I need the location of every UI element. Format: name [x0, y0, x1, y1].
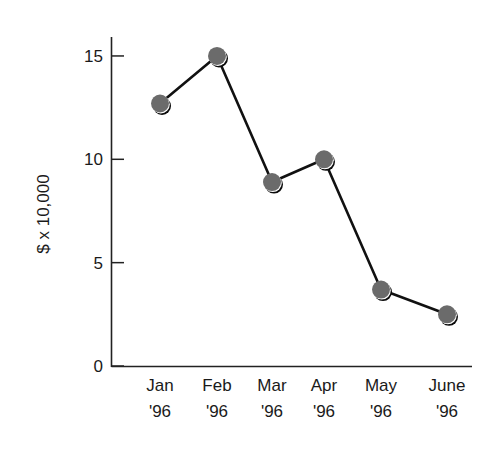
y-axis-title: $ x 10,000	[34, 174, 53, 253]
x-tick-label: Mar'96	[257, 376, 287, 421]
x-tick-label: May'96	[365, 376, 398, 421]
month-label: Apr	[311, 376, 338, 395]
data-point-marker	[372, 281, 392, 302]
data-point-marker	[208, 47, 228, 67]
x-tick-label: Feb'96	[202, 376, 231, 421]
y-tick-label: 5	[94, 254, 103, 273]
month-label: Jan	[146, 376, 173, 395]
x-tick-labels: Jan'96Feb'96Mar'96Apr'96May'96June'96	[146, 376, 465, 421]
month-label: May	[365, 376, 398, 395]
data-point-marker	[438, 305, 458, 326]
year-label: '96	[436, 402, 458, 421]
year-label: '96	[261, 402, 283, 421]
data-point-marker	[263, 173, 283, 194]
x-tick-label: June'96	[429, 376, 466, 421]
x-tick-label: Apr'96	[311, 376, 338, 421]
line-chart: 051015 Jan'96Feb'96Mar'96Apr'96May'96Jun…	[0, 0, 504, 452]
series-line	[160, 56, 447, 314]
year-label: '96	[370, 402, 392, 421]
y-ticks: 051015	[84, 47, 124, 376]
year-label: '96	[313, 402, 335, 421]
y-tick-label: 10	[84, 150, 103, 169]
y-tick-label: 15	[84, 47, 103, 66]
x-tick-label: Jan'96	[146, 376, 173, 421]
data-series	[151, 47, 458, 326]
y-tick-label: 0	[94, 357, 103, 376]
month-label: Mar	[257, 376, 287, 395]
year-label: '96	[149, 402, 171, 421]
month-label: Feb	[202, 376, 231, 395]
data-point-marker	[315, 150, 335, 171]
month-label: June	[429, 376, 466, 395]
year-label: '96	[206, 402, 228, 421]
axes	[112, 37, 473, 367]
